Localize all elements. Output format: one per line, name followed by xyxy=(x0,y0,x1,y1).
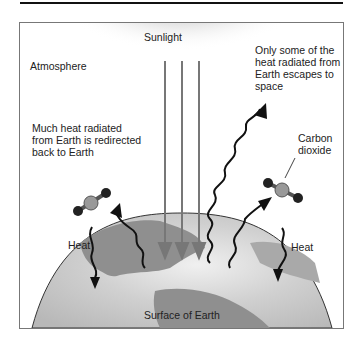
sunlight-label: Sunlight xyxy=(144,31,182,43)
heat-arrowhead-up-right-icon xyxy=(258,197,272,211)
escaping-arrowhead-icon xyxy=(254,103,267,119)
co2-molecule-right xyxy=(263,158,303,203)
co2-molecule-left xyxy=(73,188,111,216)
escape-label: Only some of the heat radiated from Eart… xyxy=(255,44,340,92)
heat-label-left: Heat xyxy=(68,239,90,251)
redirect-label: Much heat radiated from Earth is redirec… xyxy=(32,122,141,158)
heat-label-right: Heat xyxy=(291,241,313,253)
sunlight-arrows xyxy=(159,61,205,258)
atmosphere-label: Atmosphere xyxy=(30,60,87,72)
surface-of-earth-label: Surface of Earth xyxy=(144,309,220,321)
top-rule xyxy=(20,2,343,4)
diagram-frame: Sunlight Atmosphere Only some of the hea… xyxy=(19,22,344,329)
carbon-dioxide-label: Carbon dioxide xyxy=(298,132,332,156)
heat-arrowhead-up-left-icon xyxy=(110,203,122,218)
